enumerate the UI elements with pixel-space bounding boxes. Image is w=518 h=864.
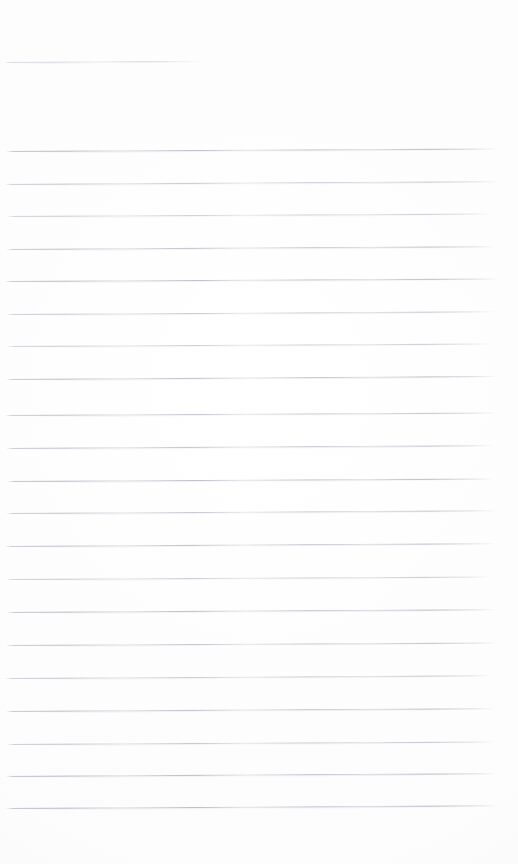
rule-ink <box>7 478 494 482</box>
rule-ink <box>5 278 499 282</box>
rule-ink <box>7 214 493 217</box>
ruled-line <box>7 478 494 482</box>
paper-grain-overlay <box>0 0 518 864</box>
rule-ink <box>6 642 498 646</box>
rule-ghost <box>26 446 465 449</box>
rule-ink <box>7 609 496 613</box>
ruled-line <box>6 376 498 380</box>
scanned-page <box>0 0 518 864</box>
ruled-line <box>5 278 499 282</box>
rule-ghost <box>26 644 469 647</box>
rule-ghost <box>26 774 468 777</box>
rule-ink <box>7 344 492 347</box>
rule-ghost <box>26 377 469 381</box>
rule-ink <box>5 543 495 547</box>
rule-ghost <box>26 806 469 809</box>
rule-ghost <box>25 544 466 548</box>
rule-ghost <box>26 215 463 218</box>
ruled-line <box>6 148 498 152</box>
ruled-line <box>6 311 495 315</box>
ruled-line <box>6 773 497 777</box>
rule-ink <box>6 311 495 315</box>
rule-ink <box>6 445 494 449</box>
ruled-line <box>6 246 496 250</box>
rule-ink <box>6 773 497 777</box>
ruled-line <box>7 609 496 613</box>
ruled-line <box>6 510 497 514</box>
rule-ghost <box>26 345 463 348</box>
rule-ghost <box>25 414 469 417</box>
rule-ink <box>6 246 496 250</box>
rule-ghost <box>26 512 468 515</box>
ruled-line <box>5 412 498 416</box>
ruled-line <box>5 181 499 185</box>
ruled-line <box>7 214 493 217</box>
rule-ghost <box>25 182 470 185</box>
ruled-line <box>6 805 498 809</box>
ruled-line <box>6 577 492 580</box>
rule-ink <box>6 708 496 712</box>
ruled-line <box>5 675 493 679</box>
rule-ink <box>6 577 492 580</box>
rule-ghost <box>25 578 462 581</box>
header-rule <box>4 61 208 63</box>
rule-ghost <box>27 610 467 613</box>
rule-ink <box>6 376 498 380</box>
ruled-line <box>7 344 492 347</box>
rule-ghost <box>25 280 470 283</box>
ruled-line <box>6 708 496 712</box>
rule-ghost <box>26 743 464 746</box>
rule-ink <box>5 181 499 185</box>
rule-ghost <box>12 62 196 64</box>
rule-ink <box>5 675 493 679</box>
rule-ink <box>6 510 497 514</box>
rule-ink <box>6 805 498 809</box>
rule-ink <box>4 61 208 63</box>
rule-ghost <box>25 677 464 680</box>
rule-ink <box>5 412 498 416</box>
rule-ghost <box>26 150 469 153</box>
rule-ghost <box>26 480 464 483</box>
ruled-line <box>7 741 494 745</box>
ruled-line <box>5 543 495 547</box>
rule-ghost <box>26 247 467 251</box>
rule-ink <box>7 741 494 745</box>
ruled-line <box>6 445 494 449</box>
rule-ghost <box>26 313 466 316</box>
ruled-line <box>6 642 498 646</box>
rule-ink <box>6 148 498 152</box>
rule-ghost <box>26 709 467 713</box>
